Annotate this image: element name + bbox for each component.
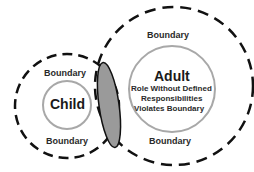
child-boundary-bottom-label: Boundary <box>46 136 88 146</box>
boundary-diagram: Boundary Child Boundary Boundary Adult R… <box>0 0 254 172</box>
adult-line-1: Role Without Defined <box>131 84 212 94</box>
adult-boundary-bottom-label: Boundary <box>149 136 191 146</box>
adult-line-3: Violates Boundary <box>134 104 204 114</box>
diagram-shapes <box>0 0 254 172</box>
child-boundary-top-label: Boundary <box>44 68 86 78</box>
adult-boundary-top-label: Boundary <box>147 30 189 40</box>
child-title: Child <box>50 96 85 112</box>
adult-line-2: Responsibilities <box>141 94 202 104</box>
adult-title: Adult <box>154 68 190 84</box>
